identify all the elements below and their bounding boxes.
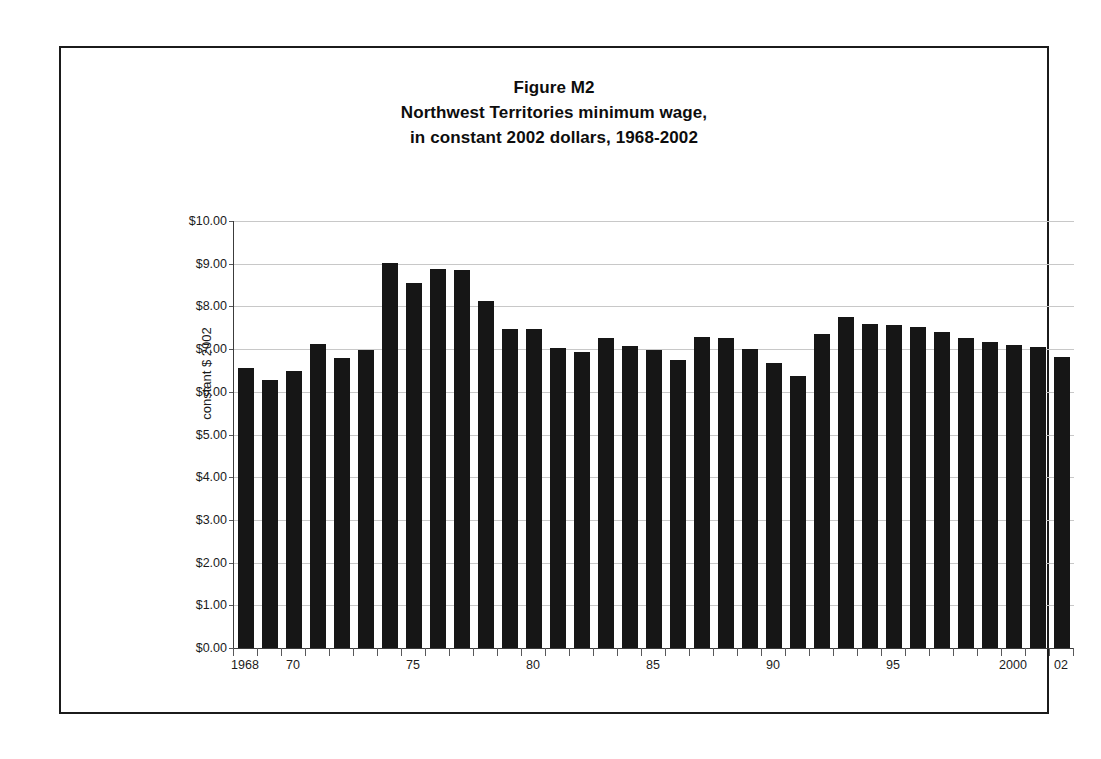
bar[interactable] bbox=[310, 344, 326, 648]
x-axis-tick-mark bbox=[641, 648, 642, 656]
y-axis-tick-label: $8.00 bbox=[173, 299, 227, 313]
bar-slot bbox=[738, 221, 762, 648]
bar-series bbox=[234, 221, 1074, 648]
x-axis-tick-mark bbox=[761, 648, 762, 656]
bar[interactable] bbox=[1054, 357, 1070, 648]
figure-frame: Figure M2 Northwest Territories minimum … bbox=[59, 46, 1049, 714]
x-axis-tick-mark bbox=[905, 648, 906, 656]
x-axis-tick-mark bbox=[257, 648, 258, 656]
y-axis-tick-label: $7.00 bbox=[173, 342, 227, 356]
y-axis-tick-label: $5.00 bbox=[173, 428, 227, 442]
bar[interactable] bbox=[382, 263, 398, 648]
y-axis-tick-label: $0.00 bbox=[173, 641, 227, 655]
x-axis-tick-label: 85 bbox=[646, 658, 660, 672]
bar-slot bbox=[762, 221, 786, 648]
bar[interactable] bbox=[598, 338, 614, 648]
bar-slot bbox=[474, 221, 498, 648]
bar[interactable] bbox=[238, 368, 254, 648]
bar-slot bbox=[930, 221, 954, 648]
y-axis-tick-label: $3.00 bbox=[173, 513, 227, 527]
x-axis-tick-mark bbox=[785, 648, 786, 656]
y-axis-tick-label: $1.00 bbox=[173, 598, 227, 612]
bar-slot bbox=[858, 221, 882, 648]
x-axis-tick-mark bbox=[473, 648, 474, 656]
bar[interactable] bbox=[1006, 345, 1022, 648]
bar-slot bbox=[642, 221, 666, 648]
bar-slot bbox=[426, 221, 450, 648]
y-axis-tick-label: $6.00 bbox=[173, 385, 227, 399]
bar[interactable] bbox=[334, 358, 350, 648]
bar[interactable] bbox=[814, 334, 830, 648]
x-axis-tick-mark bbox=[305, 648, 306, 656]
x-axis-tick-mark bbox=[1001, 648, 1002, 656]
bar[interactable] bbox=[982, 342, 998, 648]
bar[interactable] bbox=[286, 371, 302, 648]
x-axis-tick-label: 90 bbox=[766, 658, 780, 672]
chart-title-line-2: Northwest Territories minimum wage, bbox=[61, 100, 1047, 125]
bar-slot bbox=[786, 221, 810, 648]
bar[interactable] bbox=[838, 317, 854, 648]
bar[interactable] bbox=[454, 270, 470, 648]
bar[interactable] bbox=[670, 360, 686, 648]
bar[interactable] bbox=[790, 376, 806, 648]
x-axis-tick-mark bbox=[233, 648, 234, 656]
bar[interactable] bbox=[910, 327, 926, 648]
bar-slot bbox=[234, 221, 258, 648]
bar[interactable] bbox=[406, 283, 422, 648]
x-axis-tick-label: 95 bbox=[886, 658, 900, 672]
bar-slot bbox=[618, 221, 642, 648]
bar-slot bbox=[450, 221, 474, 648]
x-axis-tick-mark bbox=[353, 648, 354, 656]
bar[interactable] bbox=[646, 350, 662, 648]
bar[interactable] bbox=[694, 337, 710, 648]
bar[interactable] bbox=[478, 301, 494, 648]
bar[interactable] bbox=[262, 380, 278, 648]
x-axis-tick-mark bbox=[809, 648, 810, 656]
bar[interactable] bbox=[550, 348, 566, 648]
bar[interactable] bbox=[430, 269, 446, 648]
bar[interactable] bbox=[958, 338, 974, 648]
x-axis-tick-labels: 1968707580859095200002 bbox=[233, 658, 1073, 680]
bar[interactable] bbox=[1030, 347, 1046, 648]
chart-title-line-3: in constant 2002 dollars, 1968-2002 bbox=[61, 125, 1047, 150]
x-axis-tick-mark bbox=[833, 648, 834, 656]
x-axis-tick-mark bbox=[401, 648, 402, 656]
bar[interactable] bbox=[934, 332, 950, 648]
bar-slot bbox=[810, 221, 834, 648]
bar-slot bbox=[594, 221, 618, 648]
bar-slot bbox=[834, 221, 858, 648]
x-axis-tick-mark bbox=[377, 648, 378, 656]
bar[interactable] bbox=[718, 338, 734, 648]
bar[interactable] bbox=[862, 324, 878, 648]
x-axis-tick-label: 70 bbox=[286, 658, 300, 672]
bar-slot bbox=[498, 221, 522, 648]
bar-slot bbox=[330, 221, 354, 648]
x-axis-tick-mark bbox=[521, 648, 522, 656]
bar-chart: constant $ 2002 $0.00$1.00$2.00$3.00$4.0… bbox=[173, 221, 1073, 699]
bar-slot bbox=[378, 221, 402, 648]
x-axis-tick-mark bbox=[497, 648, 498, 656]
x-axis-tick-mark bbox=[545, 648, 546, 656]
x-axis-tick-mark bbox=[449, 648, 450, 656]
x-axis-tick-mark bbox=[953, 648, 954, 656]
y-axis-tick-label: $10.00 bbox=[173, 214, 227, 228]
x-axis-tick-mark bbox=[593, 648, 594, 656]
y-axis-tick-label: $2.00 bbox=[173, 556, 227, 570]
bar[interactable] bbox=[358, 350, 374, 648]
y-axis-tick-labels: $0.00$1.00$2.00$3.00$4.00$5.00$6.00$7.00… bbox=[173, 221, 227, 648]
bar-slot bbox=[546, 221, 570, 648]
bar[interactable] bbox=[574, 352, 590, 648]
y-axis-tick-label: $9.00 bbox=[173, 257, 227, 271]
bar-slot bbox=[354, 221, 378, 648]
x-axis-tick-mark bbox=[737, 648, 738, 656]
bar-slot bbox=[282, 221, 306, 648]
x-axis-tick-label: 75 bbox=[406, 658, 420, 672]
bar[interactable] bbox=[526, 329, 542, 648]
bar[interactable] bbox=[886, 325, 902, 648]
bar[interactable] bbox=[502, 329, 518, 648]
bar[interactable] bbox=[622, 346, 638, 648]
bar-slot bbox=[258, 221, 282, 648]
bar[interactable] bbox=[766, 363, 782, 648]
bar-slot bbox=[666, 221, 690, 648]
bar[interactable] bbox=[742, 349, 758, 648]
